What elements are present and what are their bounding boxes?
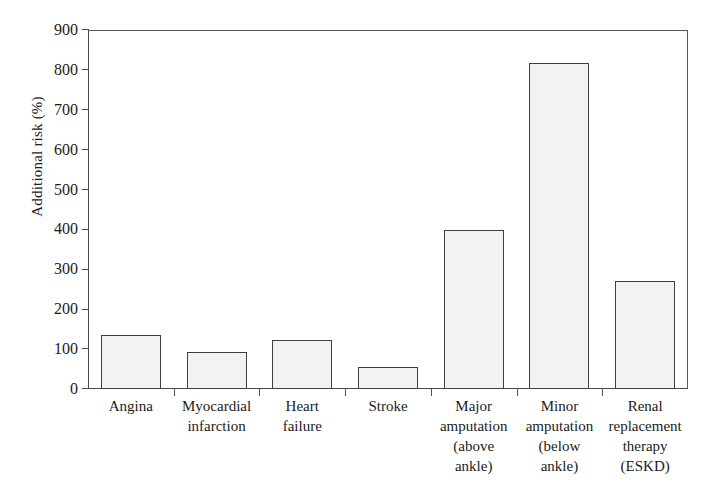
bar-1 bbox=[187, 352, 247, 389]
chart-figure: Additional risk (%) 01002003004005006007… bbox=[0, 0, 713, 498]
x-axis-label-5: Minoramputation(belowankle) bbox=[517, 396, 603, 476]
y-tick-label-300: 300 bbox=[32, 261, 78, 277]
bar-3 bbox=[358, 367, 418, 389]
y-tick-label-100: 100 bbox=[32, 341, 78, 357]
x-tick-4 bbox=[431, 389, 432, 396]
x-axis-label-line: (below bbox=[517, 436, 603, 456]
bar-series bbox=[88, 30, 688, 389]
bar-4 bbox=[444, 230, 504, 389]
bar-6 bbox=[615, 281, 675, 389]
x-axis-label-line: amputation bbox=[431, 416, 517, 436]
x-axis-label-line: Angina bbox=[88, 396, 174, 416]
x-axis-label-line: Myocardial bbox=[174, 396, 260, 416]
x-axis-label-line: Heart bbox=[259, 396, 345, 416]
x-axis-label-line: Renal bbox=[602, 396, 688, 416]
x-axis-label-2: Heartfailure bbox=[259, 396, 345, 436]
y-tick-label-500: 500 bbox=[32, 182, 78, 198]
x-axis-label-line: ankle) bbox=[431, 456, 517, 476]
x-axis-label-4: Majoramputation(aboveankle) bbox=[431, 396, 517, 476]
bar-2 bbox=[272, 340, 332, 389]
y-tick-label-700: 700 bbox=[32, 102, 78, 118]
x-axis-label-1: Myocardialinfarction bbox=[174, 396, 260, 436]
x-axis-label-line: infarction bbox=[174, 416, 260, 436]
x-tick-5 bbox=[517, 389, 518, 396]
x-axis-label-line: Stroke bbox=[345, 396, 431, 416]
x-tick-2 bbox=[259, 389, 260, 396]
y-tick-label-0: 0 bbox=[32, 381, 78, 397]
x-axis-label-line: (ESKD) bbox=[602, 456, 688, 476]
y-tick-label-900: 900 bbox=[32, 22, 78, 38]
x-axis-labels: AnginaMyocardialinfarctionHeartfailureSt… bbox=[88, 396, 688, 496]
x-axis-label-line: Major bbox=[431, 396, 517, 416]
x-tick-6 bbox=[602, 389, 603, 396]
y-tick-label-400: 400 bbox=[32, 221, 78, 237]
y-axis-labels: 0100200300400500600700800900 bbox=[0, 0, 78, 498]
x-axis-label-line: ankle) bbox=[517, 456, 603, 476]
x-axis-label-line: therapy bbox=[602, 436, 688, 456]
x-axis-label-line: replacement bbox=[602, 416, 688, 436]
y-tick-label-600: 600 bbox=[32, 142, 78, 158]
x-axis-label-6: Renalreplacementtherapy(ESKD) bbox=[602, 396, 688, 476]
x-axis-label-line: amputation bbox=[517, 416, 603, 436]
x-axis-label-line: failure bbox=[259, 416, 345, 436]
x-tick-3 bbox=[345, 389, 346, 396]
bar-0 bbox=[101, 335, 161, 389]
x-axis-label-3: Stroke bbox=[345, 396, 431, 416]
y-tick-label-200: 200 bbox=[32, 301, 78, 317]
x-axis-label-line: (above bbox=[431, 436, 517, 456]
bar-5 bbox=[529, 63, 589, 389]
x-axis-label-0: Angina bbox=[88, 396, 174, 416]
x-axis-label-line: Minor bbox=[517, 396, 603, 416]
y-tick-label-800: 800 bbox=[32, 62, 78, 78]
x-tick-1 bbox=[174, 389, 175, 396]
